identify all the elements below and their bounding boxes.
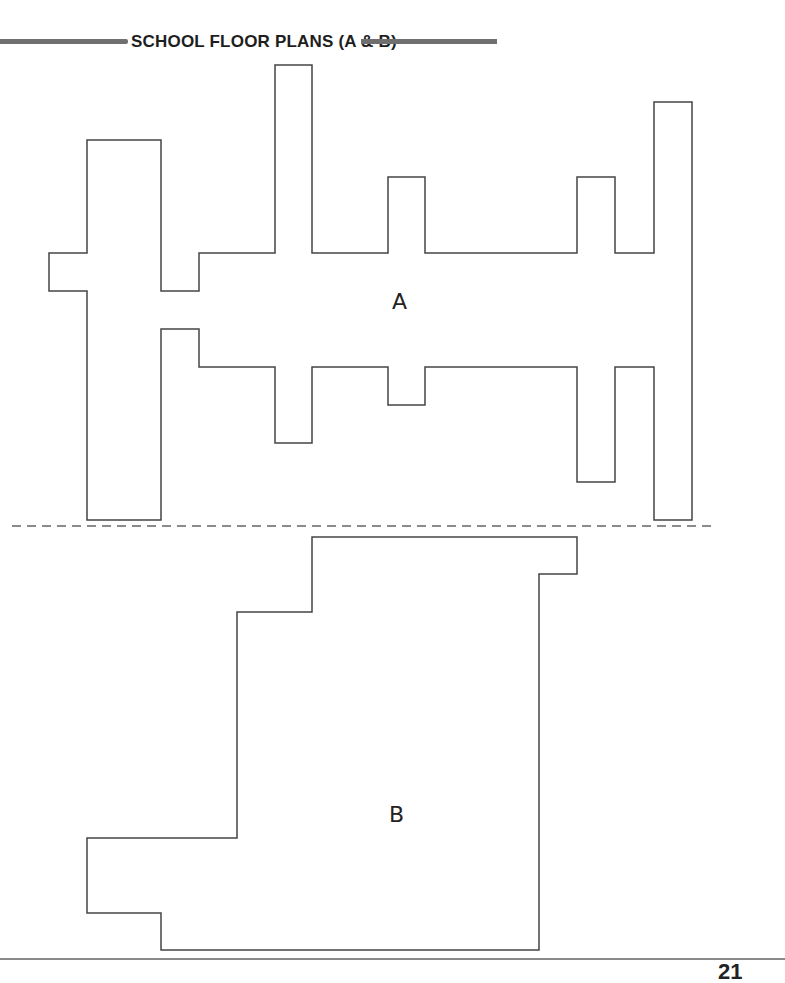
page-number: 21: [718, 961, 742, 983]
plan-b-label: B: [389, 804, 404, 826]
floor-plan-b-outline: [87, 537, 577, 950]
plan-a-label: A: [392, 291, 407, 313]
footer-rule: [0, 958, 785, 960]
floor-plan-a-outline: [49, 65, 692, 520]
